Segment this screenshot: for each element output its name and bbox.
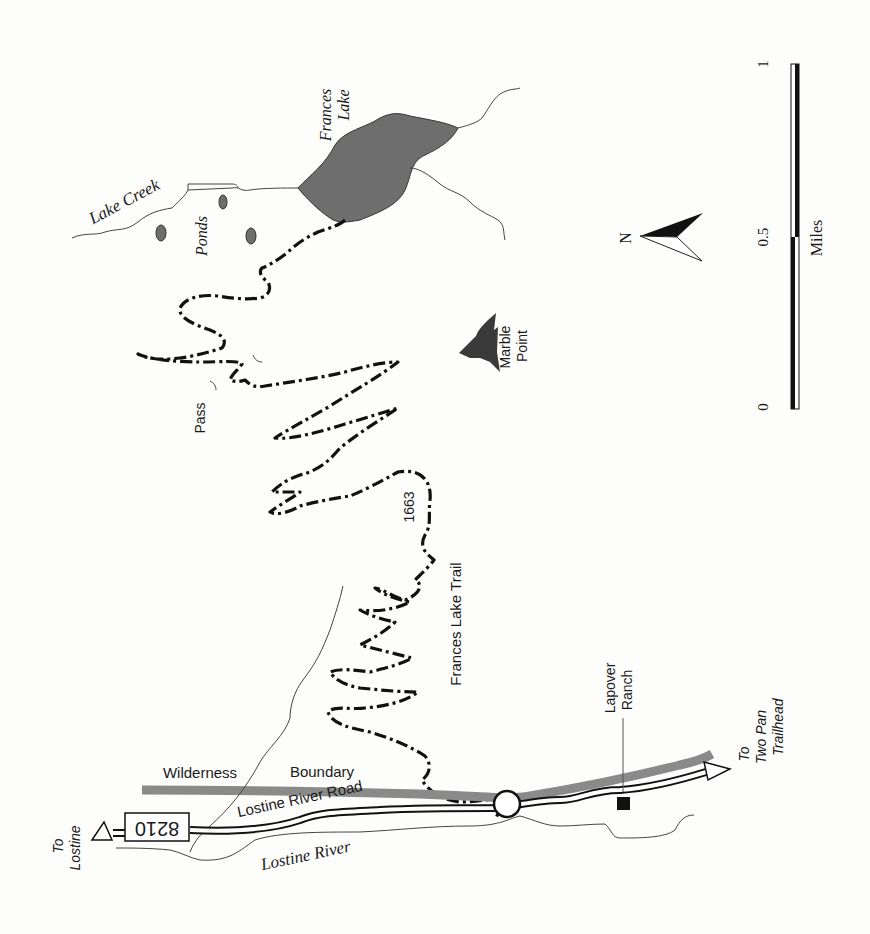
arrow-to-lostine[interactable] [92, 822, 112, 840]
scale-tick-half: 0.5 [755, 228, 771, 247]
lapover-label-line1: Lapover [602, 662, 618, 713]
pass-mark-1 [253, 355, 262, 362]
lake-inflow-stream [458, 88, 520, 128]
marble-point-label-line1: Marble [497, 325, 513, 368]
map-canvas: 8210 N 0 0.5 1 Miles Lake Creek Ponds Fr… [0, 0, 870, 934]
boundary-label: Boundary [290, 763, 355, 780]
pass-mark-2 [210, 381, 216, 390]
svg-text:Two Pan: Two Pan [753, 710, 769, 764]
lapover-ranch-marker[interactable] [617, 797, 630, 810]
to-two-pan-label[interactable]: To Two Pan Trailhead [736, 697, 786, 764]
lapover-label-line2: Ranch [619, 670, 635, 710]
north-arrow-dark-half [640, 213, 703, 237]
road-8210-label: 8210 [135, 818, 180, 840]
trail-name-label: Frances Lake Trail [447, 562, 464, 685]
scale-tick-0: 0 [755, 403, 771, 411]
lostine-river-label: Lostine River [258, 837, 352, 875]
trailhead-marker[interactable] [494, 791, 520, 817]
frances-lake-trail [138, 220, 510, 820]
svg-text:Trailhead: Trailhead [770, 697, 786, 756]
pond-2 [219, 195, 227, 209]
marble-point-label-line2: Point [514, 330, 530, 362]
north-arrow: N [617, 213, 703, 261]
scale-unit-label: Miles [808, 220, 825, 256]
scale-segment-lower [791, 237, 795, 409]
svg-text:To: To [736, 746, 752, 761]
lostine-river [116, 815, 694, 860]
ponds-label: Ponds [193, 216, 210, 257]
north-label: N [617, 232, 634, 244]
pass-label: Pass [192, 402, 208, 433]
arrow-to-two-pan[interactable] [704, 762, 730, 780]
marble-point-icon [459, 313, 500, 372]
scale-tick-1: 1 [755, 60, 771, 68]
lake-outflow-stream [410, 168, 505, 240]
trail-map: 8210 N 0 0.5 1 Miles Lake Creek Ponds Fr… [0, 0, 870, 934]
scale-segment-upper [795, 64, 799, 237]
svg-text:Lostine: Lostine [67, 825, 83, 870]
svg-text:To: To [50, 838, 66, 853]
frances-lake-label-line1: Frances [317, 89, 334, 142]
trail-number-label: 1663 [401, 491, 417, 522]
wilderness-label: Wilderness [163, 764, 237, 781]
pond-1 [156, 225, 166, 241]
lake-creek-label: Lake Creek [85, 175, 163, 229]
to-lostine-label[interactable]: To Lostine [50, 825, 83, 870]
pond-3 [246, 228, 256, 244]
frances-lake-label-line2: Lake [335, 89, 352, 121]
north-arrow-light-half [640, 236, 702, 261]
scale-bar: 0 0.5 1 Miles [755, 60, 824, 411]
